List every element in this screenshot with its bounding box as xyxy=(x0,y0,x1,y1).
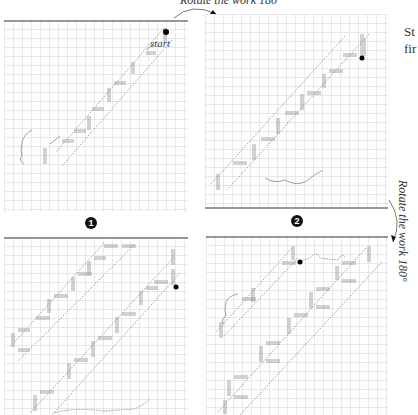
start-dot-icon xyxy=(174,285,179,290)
step-number-2: 2 xyxy=(291,215,303,227)
start-dot-icon xyxy=(298,260,303,265)
diagram-panel-4 xyxy=(206,236,388,415)
diagram-panel-2 xyxy=(205,14,388,209)
start-label: start xyxy=(150,37,170,49)
start-dot-icon xyxy=(360,56,365,61)
rotate-arrow-side-icon xyxy=(385,198,405,248)
diagram-panel-3 xyxy=(4,237,188,415)
step-number-1: 1 xyxy=(85,217,97,229)
side-text-line-1: St xyxy=(404,24,415,40)
side-text-line-2: fir xyxy=(404,41,416,57)
start-dot-icon xyxy=(163,29,169,35)
